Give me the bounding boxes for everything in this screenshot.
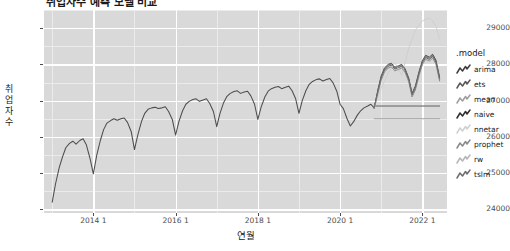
legend-item-ets[interactable]: ets [456,77,510,92]
series-layer [44,10,447,213]
legend-key-rw [456,153,471,166]
x-tick-label: 2020 1 [310,216,370,225]
legend-key-naive [456,108,471,121]
y-tick-mark [40,64,43,65]
legend-label: tslm [474,170,490,179]
legend-key-nnetar [456,123,471,136]
y-axis-label: 취업자수 [3,84,14,128]
legend-key-prophet [456,138,471,151]
y-tick-mark [40,101,43,102]
x-tick-label: 2018 1 [228,216,288,225]
legend-item-naive[interactable]: naive [456,107,510,122]
plot-panel [44,10,447,213]
legend-label: prophet [474,140,503,149]
legend-key-mean [456,93,471,106]
legend-key-tslm [456,168,471,181]
y-tick-mark [40,137,43,138]
legend-key-ets [456,78,471,91]
legend-label: nnetar [474,125,499,134]
x-tick-mark [258,213,259,216]
legend-label: arima [474,65,496,74]
legend-item-nnetar[interactable]: nnetar [456,122,510,137]
legend-label: rw [474,155,483,164]
x-tick-mark [176,213,177,216]
x-tick-mark [422,213,423,216]
y-tick-label: 24000 [476,205,510,213]
legend-item-prophet[interactable]: prophet [456,137,510,152]
chart-title: 취업자수 예측 모델 비교 [46,0,346,7]
y-tick-mark [40,28,43,29]
x-tick-label: 2014 1 [63,216,123,225]
legend-entries: arimaetsmeannaivennetarprophetrwtslm [456,62,510,182]
y-tick-mark [40,209,43,210]
x-tick-mark [340,213,341,216]
x-tick-label: 2016 1 [146,216,206,225]
y-tick-label: 29000 [476,24,510,32]
x-tick-label: 2022 1 [392,216,452,225]
legend-item-tslm[interactable]: tslm [456,167,510,182]
x-axis-label: 연월 [44,228,447,242]
legend-item-rw[interactable]: rw [456,152,510,167]
legend: .model arimaetsmeannaivennetarprophetrwt… [456,48,510,182]
legend-label: mean [474,95,495,104]
legend-key-arima [456,63,471,76]
legend-title: .model [456,48,510,58]
legend-item-arima[interactable]: arima [456,62,510,77]
y-tick-mark [40,173,43,174]
x-tick-mark [93,213,94,216]
forecast-chart: 취업자수 예측 모델 비교 24000250002600027000280002… [0,0,510,251]
legend-item-mean[interactable]: mean [456,92,510,107]
series-line-historical [52,79,374,203]
series-line-nnetar [374,18,439,108]
legend-label: ets [474,80,485,89]
legend-label: naive [474,110,495,119]
